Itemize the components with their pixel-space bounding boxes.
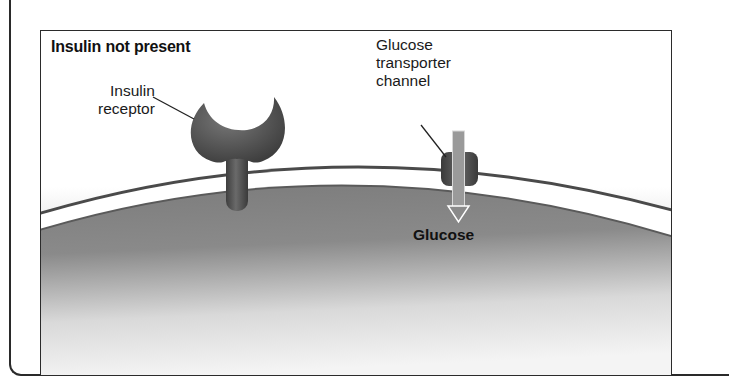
- transporter-label-line-3: channel: [376, 72, 451, 90]
- transporter-label-line-2: transporter: [376, 54, 451, 72]
- transporter-label-line-1: Glucose: [376, 36, 451, 54]
- panel-title: Insulin not present: [51, 38, 190, 56]
- diagram-panel: Insulin not present Insulin receptor Glu…: [40, 30, 672, 376]
- glucose-transporter-label: Glucose transporter channel: [376, 36, 451, 90]
- cytoplasm: [41, 186, 672, 376]
- insulin-receptor-label: Insulin receptor: [98, 82, 155, 118]
- receptor-label-line-1: Insulin: [98, 82, 155, 100]
- glucose-label: Glucose: [413, 226, 474, 244]
- receptor-label-line-2: receptor: [98, 100, 155, 118]
